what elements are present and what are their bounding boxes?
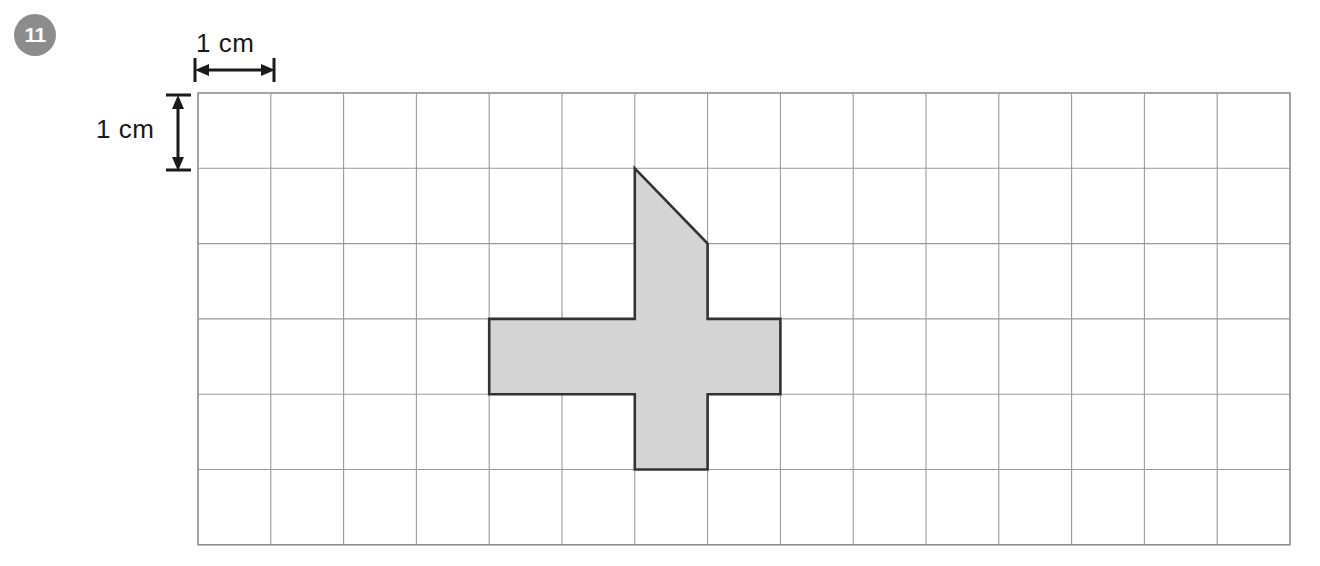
horizontal-dimension-arrow <box>195 58 275 82</box>
figure-canvas <box>0 0 1320 566</box>
shaded-shape <box>489 168 780 469</box>
vertical-dimension-arrow <box>166 95 191 171</box>
shaded-shape-polygon <box>489 168 780 469</box>
figure-page: 11 1 cm 1 cm <box>0 0 1320 566</box>
